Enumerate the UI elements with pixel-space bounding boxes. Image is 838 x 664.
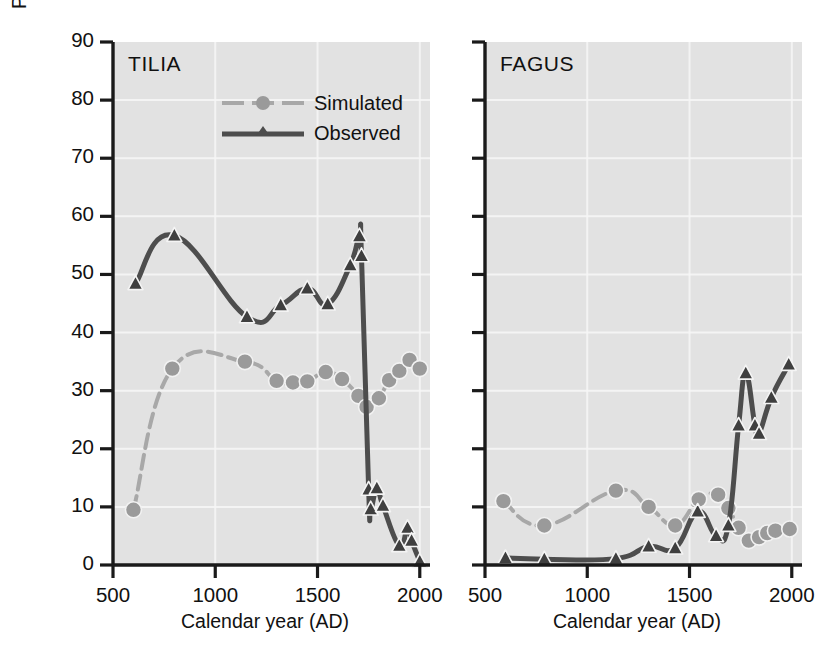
legend-key-simulated [222, 93, 304, 113]
x-tick-label: 1000 [547, 583, 627, 607]
x-tick-label: 1000 [175, 583, 255, 607]
y-tick-label: 10 [48, 493, 94, 517]
y-tick-label: 60 [48, 202, 94, 226]
y-tick-label: 40 [48, 319, 94, 343]
x-tick-label: 1500 [650, 583, 730, 607]
y-tick-label: 50 [48, 260, 94, 284]
legend-key-observed [222, 123, 304, 143]
y-tick-label: 0 [48, 551, 94, 575]
panel-title-fagus: FAGUS [500, 52, 574, 76]
figure-root: Percent (forest biomass / tree pollen) T… [0, 0, 838, 664]
panel-fagus: FAGUS Calendar year (AD) 500100015002000 [372, 0, 838, 664]
y-tick-label: 90 [48, 28, 94, 52]
y-tick-label: 30 [48, 377, 94, 401]
y-tick-label: 80 [48, 86, 94, 110]
x-axis-title-fagus: Calendar year (AD) [487, 610, 787, 633]
plot-area-fagus [372, 0, 838, 600]
x-tick-label: 500 [445, 583, 525, 607]
x-tick-label: 2000 [752, 583, 832, 607]
panel-title-tilia: TILIA [128, 52, 181, 76]
x-tick-label: 500 [73, 583, 153, 607]
x-axis-title-tilia: Calendar year (AD) [115, 610, 415, 633]
x-tick-label: 1500 [278, 583, 358, 607]
y-tick-label: 70 [48, 144, 94, 168]
y-tick-label: 20 [48, 435, 94, 459]
